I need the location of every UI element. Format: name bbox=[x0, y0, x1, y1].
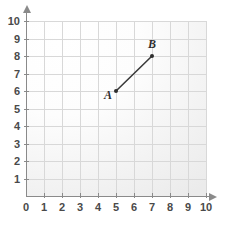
segment-layer bbox=[0, 0, 232, 227]
point-a-dot bbox=[114, 89, 118, 93]
point-b-label: B bbox=[148, 37, 156, 52]
point-b-dot bbox=[150, 54, 154, 58]
point-a-label: A bbox=[104, 88, 112, 103]
coordinate-grid-graph: 01234567891012345678910 AB bbox=[0, 0, 232, 227]
segment-ab bbox=[116, 56, 152, 91]
